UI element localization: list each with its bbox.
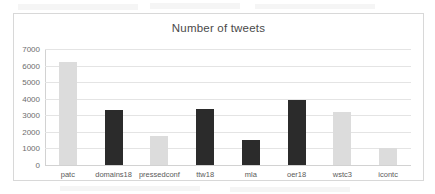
gridline: 0 [45, 165, 411, 166]
bar[interactable] [379, 148, 397, 165]
x-axis-tick-label: mla [245, 170, 257, 179]
scan-artifact [60, 186, 200, 191]
bar-slot: icontc [365, 49, 411, 165]
x-axis-tick-label: pressedconf [139, 170, 180, 179]
bar[interactable] [196, 109, 214, 165]
x-axis-tick-label: wstc3 [333, 170, 352, 179]
y-axis-tick-label: 7000 [22, 45, 40, 54]
y-axis-tick-label: 1000 [22, 144, 40, 153]
y-axis-tick-label: 3000 [22, 111, 40, 120]
y-axis-tick-label: 0 [36, 161, 40, 170]
x-axis-tick-label: domains18 [95, 170, 132, 179]
scan-artifact [255, 4, 375, 9]
scan-artifact [150, 3, 240, 9]
chart-title: Number of tweets [14, 22, 423, 34]
bar-slot: wstc3 [320, 49, 366, 165]
bar-series: patcdomains18pressedconfttw18mlaoer18wst… [45, 49, 411, 165]
bar-slot: domains18 [91, 49, 137, 165]
bar[interactable] [288, 100, 306, 165]
bar-chart: Number of tweets 70006000500040003000200… [13, 13, 424, 181]
bar-slot: ttw18 [182, 49, 228, 165]
bar[interactable] [105, 110, 123, 166]
scan-artifact [230, 187, 350, 192]
scan-artifact [18, 4, 138, 10]
x-axis-tick-label: oer18 [287, 170, 306, 179]
y-axis-tick-label: 4000 [22, 94, 40, 103]
plot-area: 70006000500040003000200010000 patcdomain… [45, 49, 411, 165]
bar-slot: patc [45, 49, 91, 165]
y-axis-tick-label: 2000 [22, 127, 40, 136]
bar[interactable] [59, 62, 77, 165]
bar-slot: mla [228, 49, 274, 165]
bar[interactable] [150, 136, 168, 165]
bar-slot: pressedconf [137, 49, 183, 165]
x-axis-tick-label: patc [61, 170, 75, 179]
bar[interactable] [333, 112, 351, 165]
y-axis-tick-label: 6000 [22, 61, 40, 70]
x-axis-tick-label: ttw18 [196, 170, 214, 179]
y-axis-tick-label: 5000 [22, 78, 40, 87]
bar-slot: oer18 [274, 49, 320, 165]
bar[interactable] [242, 140, 260, 165]
x-axis-tick-label: icontc [378, 170, 398, 179]
